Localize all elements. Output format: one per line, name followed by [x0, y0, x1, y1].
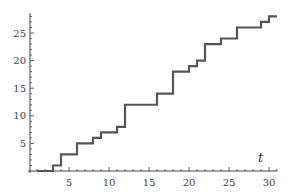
y-tick-label: 5: [20, 138, 26, 149]
y-tick-label: 20: [13, 55, 26, 66]
y-tick-label: 15: [13, 83, 26, 94]
y-tick-label: 25: [13, 28, 26, 39]
x-axis-title: t: [258, 150, 264, 165]
step-chart: 51015202530510152025 t: [0, 0, 290, 194]
x-tick-label: 30: [263, 177, 276, 188]
x-tick-label: 20: [183, 177, 196, 188]
x-tick-label: 25: [223, 177, 236, 188]
x-tick-label: 15: [143, 177, 156, 188]
axes: [28, 13, 277, 173]
y-tick-label: 10: [13, 110, 26, 121]
step-series-line: [37, 16, 277, 171]
x-tick-label: 10: [103, 177, 116, 188]
tick-labels: 51015202530510152025: [13, 28, 275, 189]
x-tick-label: 5: [66, 177, 72, 188]
